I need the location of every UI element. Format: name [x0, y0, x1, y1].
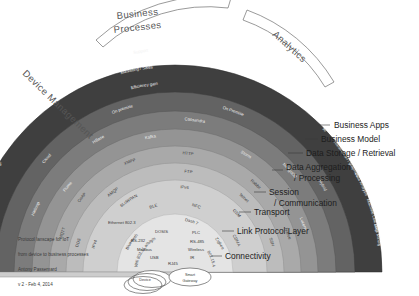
- arc-item: RS-232: [131, 238, 146, 243]
- arc-item: Modbus: [137, 247, 152, 252]
- side-label-transport: Transport: [254, 207, 290, 217]
- hub-node-device-label: Device: [139, 278, 151, 282]
- arc-item: USB: [150, 255, 159, 260]
- side-label-session: Session: [269, 187, 299, 197]
- arc-item: RS-485: [190, 239, 205, 244]
- side-label-data-aggregation: Data Aggregation: [286, 162, 351, 172]
- caption-line-2: from device to business processes: [18, 251, 88, 258]
- category-title-business-processes-l1: Business: [116, 6, 159, 21]
- caption-line-3: Antony Passemard: [18, 266, 88, 273]
- side-label-data-aggregation-2: / Processing: [294, 173, 340, 183]
- arc-item: PLC: [192, 230, 200, 235]
- side-label-link-protocol: Link Protocol Layer: [237, 226, 309, 236]
- arc-item: DOSIS: [155, 229, 168, 234]
- hub-node-gateway-label-l1: Smart: [185, 273, 196, 277]
- side-label-business-model: Business Model: [321, 134, 380, 144]
- diagram-caption: Protocol lanscape for IoT from device to…: [18, 229, 88, 296]
- arc-item: RJ45: [168, 261, 178, 266]
- side-label-connectivity: Connectivity: [225, 251, 271, 261]
- arc-item: Support: [133, 48, 149, 55]
- arc-item: IR: [190, 255, 194, 260]
- caption-line-4: v 2 - Feb 4, 2014: [18, 281, 88, 288]
- arc-item: Ethernet 802.3: [108, 220, 136, 225]
- hub-node-gateway-label-l2: Gateway: [183, 279, 198, 283]
- arc-item: Wireless: [188, 247, 204, 252]
- caption-line-1: Protocol lanscape for IoT: [18, 236, 88, 243]
- side-label-data-storage: Data Storage / Retrieval: [306, 148, 396, 158]
- side-label-business-apps: Business Apps: [334, 120, 389, 130]
